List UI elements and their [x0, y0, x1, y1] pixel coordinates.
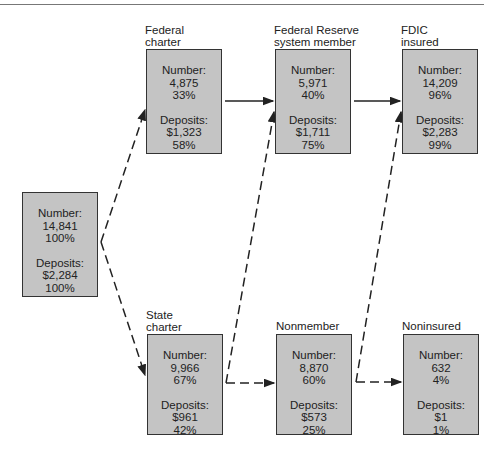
label-line: Noninsured [402, 320, 461, 332]
number-pct: 60% [277, 374, 351, 387]
label-line: Federal Reserve [274, 24, 359, 36]
deposits-label: Deposits: [148, 399, 222, 412]
deposits-label: Deposits: [403, 114, 477, 127]
deposits-value: $573 [277, 411, 351, 424]
deposits-label: Deposits: [276, 114, 350, 127]
deposits-label: Deposits: [23, 257, 97, 270]
deposits-value: $1,711 [276, 126, 350, 139]
node-all-banks: Number:14,841100% Deposits:$2,284100% [22, 192, 98, 297]
number-label: Number: [277, 349, 351, 362]
label-line: FDIC [401, 24, 439, 36]
state-charter-label: State charter [146, 309, 182, 333]
node-fed-reserve-member: Number:5,97140% Deposits:$1,71175% [275, 49, 351, 154]
number-value: 4,875 [147, 77, 221, 90]
deposits-label: Deposits: [147, 114, 221, 127]
number-label: Number: [404, 349, 478, 362]
deposits-value: $2,284 [23, 269, 97, 282]
number-value: 632 [404, 362, 478, 375]
number-value: 5,971 [276, 77, 350, 90]
label-line: insured [401, 36, 439, 48]
deposits-value: $961 [148, 411, 222, 424]
number-label: Number: [276, 64, 350, 77]
federal-charter-label: Federal charter [145, 24, 184, 48]
number-label: Number: [403, 64, 477, 77]
number-pct: 40% [276, 89, 350, 102]
label-line: system member [274, 36, 359, 48]
deposits-value: $1,323 [147, 126, 221, 139]
number-value: 14,841 [23, 220, 97, 233]
number-pct: 100% [23, 232, 97, 245]
number-pct: 4% [404, 374, 478, 387]
node-fdic-insured: Number:14,20996% Deposits:$2,28399% [402, 49, 478, 154]
deposits-pct: 75% [276, 139, 350, 152]
deposits-label: Deposits: [404, 399, 478, 412]
deposits-pct: 58% [147, 139, 221, 152]
number-pct: 33% [147, 89, 221, 102]
number-label: Number: [147, 64, 221, 77]
deposits-value: $2,283 [403, 126, 477, 139]
deposits-value: $1 [404, 411, 478, 424]
node-noninsured: Number:6324% Deposits:$11% [403, 334, 479, 435]
number-label: Number: [148, 349, 222, 362]
fed-reserve-label: Federal Reserve system member [274, 24, 359, 48]
label-line: Nonmember [276, 320, 339, 332]
node-nonmember: Number:8,87060% Deposits:$57325% [276, 334, 352, 435]
deposits-pct: 42% [148, 424, 222, 437]
node-federal-charter: Number:4,87533% Deposits:$1,32358% [146, 49, 222, 154]
number-value: 8,870 [277, 362, 351, 375]
deposits-pct: 25% [277, 424, 351, 437]
deposits-label: Deposits: [277, 399, 351, 412]
number-value: 9,966 [148, 362, 222, 375]
node-state-charter: Number:9,96667% Deposits:$96142% [147, 334, 223, 435]
deposits-pct: 1% [404, 424, 478, 437]
noninsured-label: Noninsured [402, 320, 461, 332]
deposits-pct: 99% [403, 139, 477, 152]
number-pct: 96% [403, 89, 477, 102]
label-line: Federal [145, 24, 184, 36]
label-line: charter [145, 36, 184, 48]
number-pct: 67% [148, 374, 222, 387]
number-label: Number: [23, 207, 97, 220]
fdic-label: FDIC insured [401, 24, 439, 48]
nonmember-label: Nonmember [276, 320, 339, 332]
number-value: 14,209 [403, 77, 477, 90]
deposits-pct: 100% [23, 282, 97, 295]
label-line: charter [146, 321, 182, 333]
label-line: State [146, 309, 182, 321]
